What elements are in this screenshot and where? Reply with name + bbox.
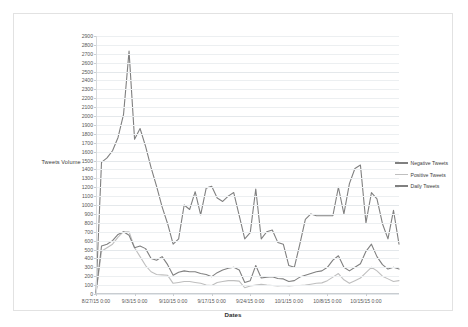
- x-tick-mark: [366, 294, 367, 296]
- gridline: [96, 54, 399, 55]
- chart-container: Tweets Volume 01002003004005006007008009…: [13, 13, 453, 311]
- gridline: [96, 143, 399, 144]
- legend-swatch-icon: [395, 162, 408, 164]
- x-tick-label: 9/17/15 0:00: [198, 298, 226, 304]
- y-tick-label: 1300: [82, 176, 93, 181]
- gridline: [96, 134, 399, 135]
- gridline: [96, 116, 399, 117]
- y-tick-label: 1700: [82, 140, 93, 145]
- gridline: [96, 241, 399, 242]
- x-tick-mark: [327, 294, 328, 296]
- y-tick-label: 1600: [82, 149, 93, 154]
- y-tick-label: 1900: [82, 122, 93, 127]
- gridline: [96, 285, 399, 286]
- gridline: [96, 258, 399, 259]
- gridline: [96, 161, 399, 162]
- x-tick-label: 10/15/15 0:00: [350, 298, 381, 304]
- gridline: [96, 294, 399, 295]
- x-tick-label: 9/24/15 0:00: [236, 298, 264, 304]
- y-tick-label: 2900: [82, 34, 93, 39]
- x-tick-label: 10/1/15 0:00: [275, 298, 303, 304]
- gridline: [96, 125, 399, 126]
- gridline: [96, 214, 399, 215]
- x-tick-label: 8/27/15 0:00: [82, 298, 110, 304]
- gridline: [96, 276, 399, 277]
- legend-label: Positive Tweets: [411, 172, 446, 178]
- gridline: [96, 205, 399, 206]
- y-tick-label: 900: [85, 211, 94, 216]
- y-tick-label: 2000: [82, 114, 93, 119]
- gridline: [96, 250, 399, 251]
- chart-legend: Negative TweetsPositive TweetsDaily Twee…: [395, 160, 448, 189]
- x-tick-label: 9/3/15 0:00: [122, 298, 148, 304]
- gridline: [96, 267, 399, 268]
- y-tick-label: 300: [85, 265, 94, 270]
- y-tick-label: 2300: [82, 87, 93, 92]
- y-axis-line: [96, 36, 97, 294]
- y-tick-label: 200: [85, 274, 94, 279]
- x-axis-line: [96, 293, 399, 294]
- y-tick-label: 800: [85, 220, 94, 225]
- legend-label: Negative Tweets: [411, 160, 449, 166]
- x-tick-mark: [250, 294, 251, 296]
- plot-area: 0100200300400500600700800900100011001200…: [96, 36, 399, 294]
- gridline: [96, 107, 399, 108]
- gridline: [96, 63, 399, 64]
- y-tick-label: 2800: [82, 42, 93, 47]
- x-tick-mark: [212, 294, 213, 296]
- x-tick-mark: [135, 294, 136, 296]
- gridline: [96, 80, 399, 81]
- legend-label: Daily Tweets: [411, 183, 440, 189]
- gridline: [96, 178, 399, 179]
- y-tick-label: 2400: [82, 78, 93, 83]
- y-tick-label: 400: [85, 256, 94, 261]
- gridline: [96, 89, 399, 90]
- gridline: [96, 187, 399, 188]
- legend-swatch-icon: [395, 174, 408, 176]
- gridline: [96, 169, 399, 170]
- y-tick-label: 1400: [82, 167, 93, 172]
- x-tick-mark: [173, 294, 174, 296]
- gridline: [96, 232, 399, 233]
- y-tick-label: 1200: [82, 185, 93, 190]
- y-tick-label: 2700: [82, 51, 93, 56]
- gridline: [96, 72, 399, 73]
- y-tick-label: 0: [90, 292, 93, 297]
- gridline: [96, 36, 399, 37]
- x-tick-label: 9/10/15 0:00: [159, 298, 187, 304]
- x-axis-title: Dates: [14, 311, 452, 318]
- y-tick-label: 2600: [82, 60, 93, 65]
- y-tick-label: 1800: [82, 131, 93, 136]
- gridline: [96, 196, 399, 197]
- y-tick-label: 2200: [82, 96, 93, 101]
- y-tick-label: 2100: [82, 105, 93, 110]
- y-tick-label: 1500: [82, 158, 93, 163]
- gridline: [96, 223, 399, 224]
- y-tick-label: 500: [85, 247, 94, 252]
- y-tick-label: 600: [85, 238, 94, 243]
- legend-swatch-icon: [395, 185, 408, 187]
- legend-item-positive-tweets[interactable]: Positive Tweets: [395, 172, 448, 178]
- y-tick-label: 2500: [82, 69, 93, 74]
- y-tick-label: 1000: [82, 203, 93, 208]
- x-tick-mark: [289, 294, 290, 296]
- gridline: [96, 45, 399, 46]
- x-tick-mark: [96, 294, 97, 296]
- gridline: [96, 98, 399, 99]
- x-tick-label: 10/8/15 0:00: [313, 298, 341, 304]
- gridlines-layer: 0100200300400500600700800900100011001200…: [96, 36, 399, 294]
- legend-item-daily-tweets[interactable]: Daily Tweets: [395, 183, 448, 189]
- gridline: [96, 152, 399, 153]
- y-tick-label: 700: [85, 229, 94, 234]
- legend-item-negative-tweets[interactable]: Negative Tweets: [395, 160, 448, 166]
- y-tick-label: 100: [85, 283, 94, 288]
- y-tick-label: 1100: [82, 194, 93, 199]
